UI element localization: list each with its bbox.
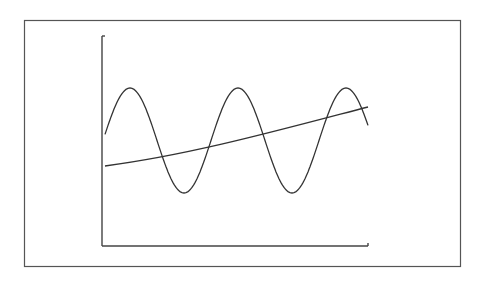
- figure: [0, 0, 485, 282]
- outer-frame: [25, 21, 461, 267]
- trend-line: [105, 107, 368, 166]
